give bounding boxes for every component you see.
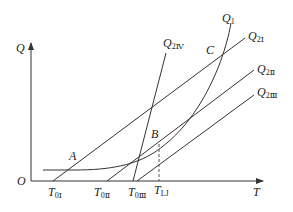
point-b-label: B [151, 127, 159, 141]
tick-t0-3: T0Ⅲ [128, 185, 147, 200]
label-q2-4: Q2Ⅳ [163, 36, 185, 51]
line-q2-1 [53, 38, 245, 181]
x-axis-label: T [253, 185, 261, 199]
tick-t0-2: T0Ⅱ [94, 185, 110, 200]
y-axis-label: Q [16, 41, 25, 55]
point-a-label: A [68, 149, 77, 163]
tick-t0-1: T0Ⅰ [48, 185, 62, 200]
curve-q1 [43, 23, 231, 170]
heat-balance-diagram: Q T O Q1 Q2Ⅰ Q2Ⅱ Q2Ⅲ Q2Ⅳ A B C T0Ⅰ T0Ⅱ T… [0, 0, 293, 212]
point-c-label: C [206, 43, 215, 57]
origin-label: O [17, 174, 26, 188]
diagram-canvas: Q T O Q1 Q2Ⅰ Q2Ⅱ Q2Ⅲ Q2Ⅳ A B C T0Ⅰ T0Ⅱ T… [0, 0, 293, 212]
tick-tlj: TLJ [154, 183, 169, 198]
label-q2-1: Q2Ⅰ [248, 29, 264, 44]
line-q2-4 [133, 53, 166, 181]
label-q2-3: Q2Ⅲ [257, 85, 278, 100]
label-q2-2: Q2Ⅱ [257, 62, 275, 77]
label-q1: Q1 [222, 11, 235, 26]
